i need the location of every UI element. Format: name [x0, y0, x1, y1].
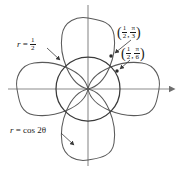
rose-label-expression: cos 2θ	[23, 125, 46, 135]
intersection-point-pi-over-6	[115, 69, 118, 72]
leader-line-circle-label	[47, 48, 60, 60]
rose-label-variable: r	[10, 125, 14, 135]
polar-graph-figure: r = 1 2 r = cos 2θ ( 1 2 , π 3 )	[0, 0, 184, 178]
circle-label-denominator: 2	[30, 44, 36, 52]
polar-plot-canvas	[0, 0, 184, 178]
leader-line-rose-label	[61, 133, 74, 145]
rose-equation-label: r = cos 2θ	[10, 126, 46, 135]
intersection-point-pi-over-3	[109, 54, 112, 57]
point1-close-paren: )	[136, 26, 141, 40]
circle-label-fraction: 1 2	[30, 37, 36, 53]
circle-equation-label: r = 1 2	[17, 37, 36, 53]
circle-label-equals: =	[23, 39, 28, 49]
circle-label-numerator: 1	[30, 37, 36, 44]
rose-label-equals: =	[16, 125, 21, 135]
circle-label-variable: r	[17, 39, 21, 49]
point-label-pi-over-6: ( 1 2 , π 6 )	[121, 46, 145, 62]
point2-close-paren: )	[140, 47, 145, 61]
point-label-pi-over-3: ( 1 2 , π 3 )	[117, 25, 141, 41]
